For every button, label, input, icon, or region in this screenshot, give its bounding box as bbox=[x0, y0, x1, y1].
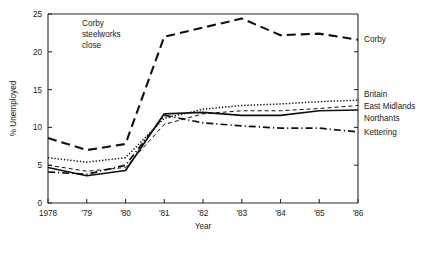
y-tick-label: 20 bbox=[33, 48, 43, 57]
x-tick-label: '84 bbox=[275, 209, 286, 218]
x-tick-label: '79 bbox=[81, 209, 92, 218]
x-tick-label: '83 bbox=[236, 209, 247, 218]
y-tick-label: 0 bbox=[37, 199, 42, 208]
annotation-line: Corby bbox=[82, 19, 105, 28]
annotation-line: close bbox=[82, 41, 102, 50]
y-tick-label: 15 bbox=[33, 86, 43, 95]
series-label-kettering: Kettering bbox=[364, 128, 397, 137]
series-label-britain: Britain bbox=[364, 90, 388, 99]
x-axis-title: Year bbox=[195, 222, 212, 231]
x-tick-label: 1978 bbox=[39, 209, 58, 218]
unemployment-line-chart: 05101520251978'79'80'81'82'83'84'85'86Ye… bbox=[0, 0, 422, 253]
x-tick-label: '82 bbox=[198, 209, 209, 218]
y-tick-label: 10 bbox=[33, 123, 43, 132]
y-axis-title: % Unemployed bbox=[9, 80, 18, 136]
x-tick-label: '86 bbox=[353, 209, 364, 218]
chart-canvas: 05101520251978'79'80'81'82'83'84'85'86Ye… bbox=[0, 0, 422, 253]
y-tick-label: 25 bbox=[33, 10, 43, 19]
series-line-northants bbox=[48, 110, 358, 176]
x-tick-label: '81 bbox=[159, 209, 170, 218]
series-line-kettering bbox=[48, 115, 358, 174]
series-label-corby: Corby bbox=[364, 35, 387, 44]
annotation-line: steelworks bbox=[82, 30, 121, 39]
series-label-northants: Northants bbox=[364, 114, 400, 123]
series-line-east-midlands bbox=[48, 105, 358, 171]
y-tick-label: 5 bbox=[37, 161, 42, 170]
x-tick-label: '80 bbox=[120, 209, 131, 218]
series-line-britain bbox=[48, 100, 358, 162]
series-label-east-midlands: East Midlands bbox=[364, 102, 415, 111]
x-tick-label: '85 bbox=[314, 209, 325, 218]
